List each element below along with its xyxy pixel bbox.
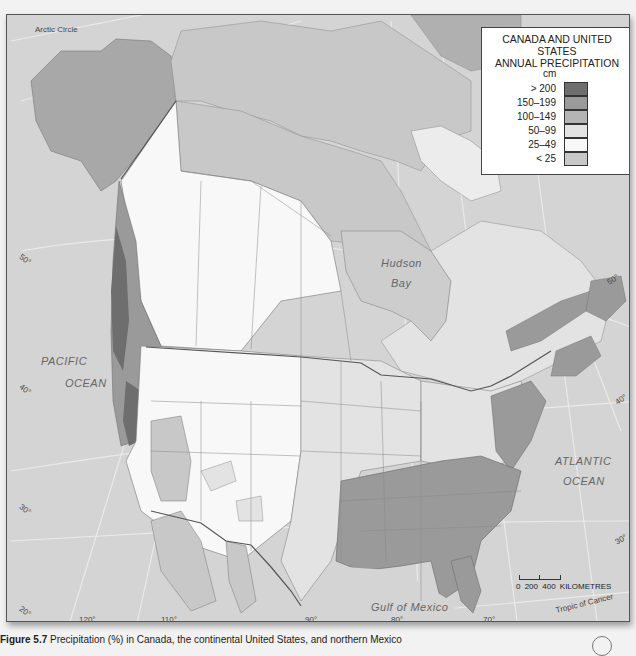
legend-item: 50–99 (482, 124, 630, 138)
legend-range: 100–149 (517, 111, 556, 122)
lon-90: 90° (305, 615, 317, 622)
pacific-ocean-label: OCEAN (65, 377, 107, 389)
bay-label: Bay (391, 277, 411, 289)
legend-swatch (564, 124, 588, 138)
scale-bar-tick (539, 575, 540, 579)
legend-swatch (564, 138, 588, 152)
legend-swatch (564, 82, 588, 96)
lon-70: 70° (483, 615, 495, 622)
legend-range: < 25 (536, 153, 556, 164)
lon-120: 120° (79, 615, 96, 622)
scale-labels: 0 200 400 KILOMETRES (516, 582, 611, 591)
lon-80: 80° (391, 615, 403, 622)
legend-item: > 200 (482, 82, 630, 96)
legend-item: < 25 (482, 152, 630, 166)
hudson-label: Hudson (381, 257, 422, 269)
newfoundland (586, 276, 626, 321)
legend-item: 150–199 (482, 96, 630, 110)
legend-item: 25–49 (482, 138, 630, 152)
gulf-of-mexico-label: Gulf of Mexico (371, 601, 448, 613)
figure-caption-text: Precipitation (%) in Canada, the contine… (50, 634, 402, 645)
legend-item: 100–149 (482, 110, 630, 124)
legend-unit: cm (543, 68, 556, 79)
arctic-circle-label: Arctic Circle (35, 25, 78, 34)
figure-number: Figure 5.7 (0, 634, 47, 645)
legend-swatch (564, 96, 588, 110)
legend-range: 150–199 (517, 97, 556, 108)
figure-caption: Figure 5.7 Precipitation (%) in Canada, … (0, 634, 402, 645)
legend-range: > 200 (531, 83, 556, 94)
legend-swatch (564, 152, 588, 166)
lon-110: 110° (161, 615, 177, 622)
legend-range: 25–49 (528, 139, 556, 150)
legend-title-line1: CANADA AND UNITED STATES (482, 33, 630, 57)
atlantic-label: ATLANTIC (555, 455, 611, 467)
legend-range: 50–99 (528, 125, 556, 136)
scale-bar-line (519, 575, 561, 580)
publisher-logo-icon (592, 636, 612, 656)
map-frame: Arctic Circle Hudson Bay PACIFIC OCEAN A… (6, 14, 630, 622)
pacific-label: PACIFIC (41, 355, 87, 367)
legend: CANADA AND UNITED STATES ANNUAL PRECIPIT… (481, 27, 630, 175)
legend-swatch (564, 110, 588, 124)
atlantic-ocean-label: OCEAN (563, 475, 605, 487)
